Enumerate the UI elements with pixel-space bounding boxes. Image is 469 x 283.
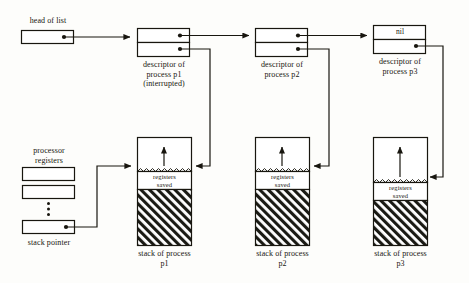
descriptor-p2-box [256, 29, 308, 57]
descriptor-p1-box [138, 29, 190, 57]
stack-p2-caption-line2: p2 [243, 259, 322, 269]
descriptor-p3-caption-line1: descriptor of [361, 57, 439, 67]
descriptor-p2-caption-line2: process p2 [243, 70, 321, 80]
descriptor-p1-caption-line1: descriptor of [125, 60, 203, 70]
stack-p2-saved-label-line1: registers [256, 173, 309, 181]
descriptor-p1-caption-line2: process p1 [125, 70, 203, 80]
stack-pointer-label: stack pointer [11, 238, 87, 248]
stack-p3-caption-line2: p3 [361, 259, 440, 269]
stack-p3-saved-label-line1: registers [374, 184, 427, 192]
processor-register-slots [23, 168, 75, 234]
stack-p1 [138, 138, 192, 246]
registers-ellipsis-icon [47, 202, 50, 216]
stack-p3-caption-line1: stack of process [361, 249, 440, 259]
processor-registers-label-line1: processor [14, 146, 84, 156]
stack-p1-saved-label-line2: saved [138, 181, 191, 189]
descriptor-p2-caption-line1: descriptor of [243, 60, 321, 70]
processor-registers-label-line2: registers [14, 156, 84, 166]
stack-p2 [256, 138, 310, 246]
stack-p1-caption-line1: stack of process [125, 249, 204, 259]
stack-p2-caption-line1: stack of process [243, 249, 322, 259]
descriptor-p3-nil-value: nil [374, 28, 426, 36]
stack-p2-saved-label-line2: saved [256, 181, 309, 189]
stack-p1-saved-label-line1: registers [138, 173, 191, 181]
head-of-list-label: head of list [14, 16, 82, 26]
link-stack-pointer-to-stack-p1 [66, 166, 131, 227]
stack-p3-saved-label-line2: saved [374, 192, 427, 200]
stack-p1-caption-line2: p1 [125, 259, 204, 269]
descriptor-p3-caption-line2: process p3 [361, 67, 439, 77]
diagram-canvas: head of list nil descriptor of process p… [0, 0, 469, 283]
descriptor-p1-caption-line3: (interrupted) [125, 79, 203, 89]
